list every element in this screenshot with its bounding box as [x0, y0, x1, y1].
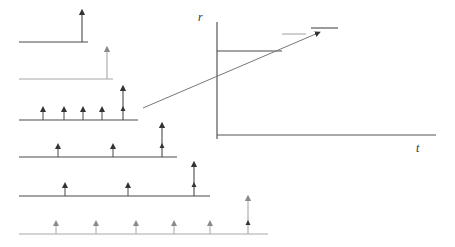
impulse-trains — [19, 12, 268, 234]
impulse-row-2 — [19, 49, 113, 79]
x-axis-label: t — [416, 141, 419, 156]
impulse-row-1 — [19, 12, 88, 42]
r-t-axes — [217, 22, 436, 139]
trend-arrow — [143, 33, 318, 108]
step-segments — [217, 28, 338, 51]
impulse-marker — [192, 182, 197, 187]
y-axis-label: r — [198, 10, 203, 25]
trend-arrow-line — [143, 33, 318, 108]
impulse-marker — [121, 106, 126, 111]
impulse-marker — [246, 220, 251, 225]
impulse-row-4 — [19, 125, 177, 157]
impulse-row-6 — [19, 198, 268, 234]
impulse-marker — [160, 143, 165, 148]
diagram-canvas — [0, 0, 455, 247]
impulse-row-3 — [19, 88, 138, 120]
impulse-row-5 — [19, 164, 210, 196]
